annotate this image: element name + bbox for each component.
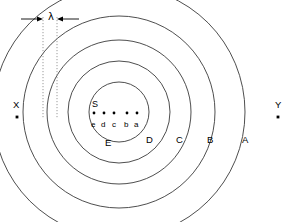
ring-label-b: B	[207, 135, 213, 144]
point-label-x: X	[13, 100, 19, 109]
wave-dot-label-d: d	[101, 120, 105, 129]
wavelength-arrow-left-head	[37, 16, 43, 21]
diagram-canvas	[0, 0, 298, 222]
ring-D	[68, 61, 170, 163]
wave-dot-e	[93, 112, 96, 115]
wave-dot-label-a: a	[134, 120, 138, 129]
source-label-s: S	[92, 100, 98, 109]
ring-A	[0, 0, 245, 222]
external-point-dots-group	[16, 116, 280, 119]
ring-label-d: D	[146, 135, 153, 144]
ring-label-a: A	[242, 135, 248, 144]
wave-dot-d	[103, 112, 106, 115]
ring-label-c: C	[176, 135, 183, 144]
wave-dots-group	[93, 112, 139, 115]
wave-dot-label-b: b	[124, 120, 128, 129]
ring-label-e: E	[105, 138, 111, 147]
wave-dot-label-c: c	[112, 120, 116, 129]
wavelength-guides-group	[43, 17, 57, 118]
wave-dot-b	[126, 112, 129, 115]
ring-E	[89, 82, 149, 142]
wave-dot-a	[136, 112, 139, 115]
point-X-dot	[16, 116, 19, 119]
wavelength-arrow-right-head	[57, 16, 63, 21]
concentric-rings-group	[0, 0, 245, 222]
point-Y-dot	[277, 116, 280, 119]
ring-B	[23, 16, 215, 208]
wavefront-diagram: λ S e d c b a A B C D E X Y	[0, 0, 298, 222]
point-label-y: Y	[275, 100, 281, 109]
wave-dot-label-e: e	[91, 120, 95, 129]
wave-dot-c	[113, 112, 116, 115]
ring-C	[47, 40, 191, 184]
wavelength-symbol-label: λ	[48, 12, 54, 21]
